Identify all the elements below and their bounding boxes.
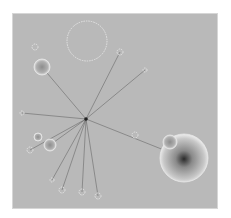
node-outline-circle-top[interactable] (67, 21, 107, 61)
nodes-layer (20, 21, 208, 199)
node-small-bubble-br[interactable] (163, 135, 177, 149)
node-bubble-left-1[interactable] (34, 133, 42, 141)
hub-node[interactable] (84, 117, 88, 121)
edge-bubble-tl (42, 67, 86, 119)
node-bubble-tl[interactable] (34, 59, 50, 75)
edge-cluster-top-right (86, 52, 120, 119)
network-graph[interactable] (0, 0, 231, 218)
edge-bubble-left-2 (50, 119, 86, 145)
edge-cluster-bottom-4 (86, 119, 98, 196)
node-cluster-top-left[interactable] (32, 44, 38, 50)
edge-cluster-right (86, 70, 145, 119)
node-cluster-mid-right[interactable] (132, 132, 138, 138)
edge-bar-left (22, 113, 86, 119)
node-bubble-left-2[interactable] (44, 139, 56, 151)
